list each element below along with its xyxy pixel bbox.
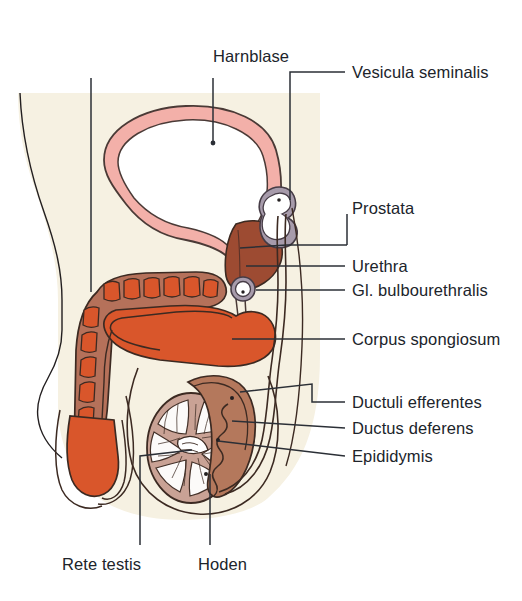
figure-canvas: Harnblase Vesicula seminalis Prostata Ur… [0, 0, 522, 601]
label-prostata: Prostata [352, 199, 415, 217]
label-hoden: Hoden [198, 555, 247, 573]
label-harnblase: Harnblase [213, 47, 289, 65]
label-urethra: Urethra [352, 257, 408, 275]
label-corpus-spongiosum: Corpus spongiosum [352, 330, 500, 348]
label-gl-bulbourethralis: Gl. bulbourethralis [352, 281, 488, 299]
label-vesicula-seminalis: Vesicula seminalis [352, 63, 489, 81]
label-epididymis: Epididymis [352, 447, 433, 465]
label-rete-testis: Rete testis [62, 555, 141, 573]
gl-bulbourethralis [231, 277, 255, 301]
anatomy-illustration: Harnblase Vesicula seminalis Prostata Ur… [0, 0, 522, 601]
label-ductuli-efferentes: Ductuli efferentes [352, 393, 482, 411]
label-ductus-deferens: Ductus deferens [352, 419, 474, 437]
